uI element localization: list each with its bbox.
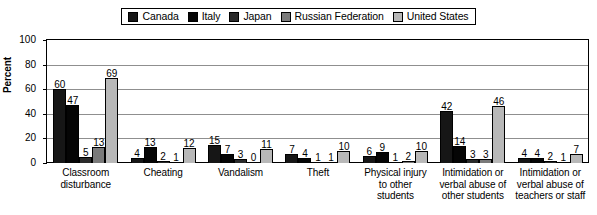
legend-item-italy[interactable]: Italy <box>188 11 221 22</box>
bar-slot: 9 <box>376 40 389 163</box>
bar-value-label: 3 <box>470 149 476 160</box>
bar[interactable]: 6 <box>363 156 376 163</box>
bar-slot: 4 <box>518 40 531 163</box>
bar-group: 4132112 <box>124 40 201 163</box>
bar-value-label: 46 <box>493 96 504 107</box>
legend-label: Italy <box>202 11 221 22</box>
y-tick-label: 40 <box>0 109 36 119</box>
bar[interactable]: 1 <box>389 162 402 163</box>
bar[interactable]: 4 <box>518 158 531 163</box>
legend-swatch-icon <box>128 12 138 22</box>
x-tick-label-line: Intimidation or <box>513 167 588 179</box>
bar-slot: 60 <box>53 40 66 163</box>
bar[interactable]: 14 <box>453 146 466 163</box>
x-tick-label-line: Intimidation or <box>435 167 510 179</box>
bar[interactable]: 46 <box>492 106 505 163</box>
bar-value-label: 60 <box>54 79 65 90</box>
bar-slot: 3 <box>479 40 492 163</box>
bar[interactable]: 4 <box>298 158 311 163</box>
bar[interactable]: 47 <box>66 105 79 163</box>
bar-slot: 47 <box>66 40 79 163</box>
bar[interactable]: 42 <box>440 111 453 163</box>
bar-slot: 10 <box>415 40 428 163</box>
bar-value-label: 15 <box>209 135 220 146</box>
bar-value-label: 4 <box>521 148 527 159</box>
bar-slot: 7 <box>221 40 234 163</box>
bar[interactable]: 7 <box>570 154 583 163</box>
bar-value-label: 2 <box>406 151 412 162</box>
bar[interactable]: 2 <box>402 161 415 163</box>
x-tick-label: Theft <box>279 167 356 202</box>
bar-slot: 4 <box>531 40 544 163</box>
bar-value-label: 3 <box>238 149 244 160</box>
x-tick-label: Cheating <box>124 167 201 202</box>
bar-slot: 13 <box>144 40 157 163</box>
bar-value-label: 1 <box>315 152 321 163</box>
x-tick-label-line: disturbance <box>48 179 123 191</box>
bar[interactable]: 3 <box>479 159 492 163</box>
bar-slot: 6 <box>363 40 376 163</box>
y-tick-label: 20 <box>0 133 36 143</box>
bar[interactable]: 3 <box>234 159 247 163</box>
bar-slot: 12 <box>183 40 196 163</box>
x-tick-label: Intimidation orverbal abuse ofteachers o… <box>512 167 589 202</box>
bar[interactable]: 69 <box>105 78 118 163</box>
bar-slot: 2 <box>402 40 415 163</box>
bar[interactable]: 13 <box>92 147 105 163</box>
bar-slot: 69 <box>105 40 118 163</box>
bar-value-label: 4 <box>302 148 308 159</box>
bar-value-label: 10 <box>416 141 427 152</box>
bar-value-label: 1 <box>173 152 179 163</box>
bar-value-label: 0 <box>251 152 257 163</box>
bar-value-label: 2 <box>160 151 166 162</box>
x-tick-label-line: teachers or staff <box>513 190 588 202</box>
bar[interactable]: 60 <box>53 89 66 163</box>
x-tick-label: Intimidation orverbal abuse ofother stud… <box>434 167 511 202</box>
bar[interactable]: 9 <box>376 152 389 163</box>
bar[interactable]: 3 <box>466 159 479 163</box>
legend-item-canada[interactable]: Canada <box>128 11 178 22</box>
bar-slot: 3 <box>466 40 479 163</box>
bar-slot: 4 <box>131 40 144 163</box>
y-tick-label: 0 <box>0 158 36 168</box>
legend-label: Russian Federation <box>295 11 384 22</box>
bar-slot: 10 <box>337 40 350 163</box>
bar-slot: 1 <box>324 40 337 163</box>
bar[interactable]: 1 <box>324 162 337 163</box>
bar[interactable]: 2 <box>544 161 557 163</box>
bar-value-label: 14 <box>454 136 465 147</box>
bar-slot: 1 <box>311 40 324 163</box>
legend-item-japan[interactable]: Japan <box>229 11 271 22</box>
bar[interactable]: 4 <box>131 158 144 163</box>
bar-value-label: 10 <box>338 141 349 152</box>
bar[interactable]: 7 <box>285 154 298 163</box>
bar-value-label: 42 <box>441 101 452 112</box>
legend-item-united-states[interactable]: United States <box>393 11 469 22</box>
bar-slot: 0 <box>247 40 260 163</box>
bar[interactable]: 4 <box>531 158 544 163</box>
bar-value-label: 1 <box>328 152 334 163</box>
bar[interactable]: 10 <box>415 151 428 163</box>
bar[interactable]: 2 <box>157 161 170 163</box>
chart-legend: CanadaItalyJapanRussian FederationUnited… <box>121 8 475 25</box>
bar-value-label: 13 <box>93 137 104 148</box>
bar-value-label: 13 <box>145 137 156 148</box>
bar-group: 691210 <box>357 40 434 163</box>
bar[interactable]: 12 <box>183 148 196 163</box>
bar[interactable]: 5 <box>79 157 92 163</box>
bar[interactable]: 11 <box>260 149 273 163</box>
bar-value-label: 47 <box>67 95 78 106</box>
bar[interactable]: 10 <box>337 151 350 163</box>
x-tick-label-line: Vandalism <box>203 167 278 179</box>
x-tick-label-line: Classroom <box>48 167 123 179</box>
legend-item-russian-federation[interactable]: Russian Federation <box>281 11 384 22</box>
bar[interactable]: 13 <box>144 147 157 163</box>
legend-swatch-icon <box>229 12 239 22</box>
x-tick-label-line: Theft <box>280 167 355 179</box>
bar[interactable]: 1 <box>557 162 570 163</box>
y-tick-mark <box>43 163 47 164</box>
bar[interactable]: 1 <box>170 162 183 163</box>
bar[interactable]: 7 <box>221 154 234 163</box>
bar[interactable]: 15 <box>208 145 221 163</box>
bar[interactable]: 1 <box>311 162 324 163</box>
